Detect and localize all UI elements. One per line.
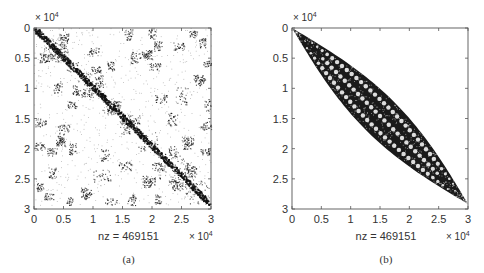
y-tick-label: 2.5 [273, 173, 288, 185]
y-exponent-label: × 104 [35, 11, 59, 23]
y-tick-label: 3 [282, 203, 288, 215]
x-tick-label: 2.5 [174, 213, 189, 225]
y-tick-label: 2 [282, 143, 288, 155]
y-tick-label: 0.5 [273, 52, 288, 64]
x-tick-label: 1.5 [372, 213, 387, 225]
x-tick-label: 1 [90, 213, 96, 225]
x-exponent-label: × 104 [446, 230, 470, 242]
x-tick-label: 0.5 [56, 213, 71, 225]
x-tick-label: 0 [289, 213, 295, 225]
x-tick-label: 0 [31, 213, 37, 225]
spy-plot-a-canvas: 00.511.522.5300.511.522.53× 104× 104nz =… [0, 0, 242, 273]
x-tick-label: 2 [149, 213, 155, 225]
y-tick-label: 0.5 [15, 52, 30, 64]
y-exponent-label: × 104 [293, 11, 317, 23]
sparsity-dots [34, 28, 212, 206]
x-axis-label: nz = 469151 [356, 230, 417, 242]
x-tick-label: 2 [406, 213, 412, 225]
y-tick-label: 2.5 [15, 173, 30, 185]
x-tick-label: 3 [465, 213, 471, 225]
spy-plot-a: 00.511.522.5300.511.522.53× 104× 104nz =… [0, 0, 242, 273]
x-tick-label: 1 [348, 213, 354, 225]
x-tick-label: 1.5 [115, 213, 130, 225]
axes: 00.511.522.5300.511.522.53× 104× 104nz =… [273, 11, 471, 266]
figure-caption: (a) [122, 253, 135, 266]
spy-plot-b-canvas: 00.511.522.5300.511.522.53× 104× 104nz =… [242, 0, 484, 273]
x-exponent-label: × 104 [189, 230, 213, 242]
x-axis-label: nz = 469151 [98, 230, 159, 242]
band-pattern [292, 28, 469, 205]
x-tick-label: 0.5 [314, 213, 329, 225]
figure-caption: (b) [380, 253, 393, 266]
y-tick-label: 1 [24, 82, 30, 94]
y-tick-label: 0 [282, 22, 288, 34]
y-tick-label: 2 [24, 143, 30, 155]
y-tick-label: 3 [24, 203, 30, 215]
x-tick-label: 3 [208, 213, 214, 225]
spy-plot-b: 00.511.522.5300.511.522.53× 104× 104nz =… [242, 0, 484, 273]
y-tick-label: 1.5 [273, 113, 288, 125]
y-tick-label: 0 [24, 22, 30, 34]
y-tick-label: 1.5 [15, 113, 30, 125]
x-tick-label: 2.5 [431, 213, 446, 225]
y-tick-label: 1 [282, 82, 288, 94]
